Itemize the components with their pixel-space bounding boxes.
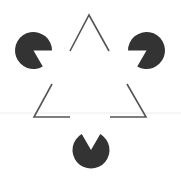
outline-bottom-left-corner: [34, 84, 70, 117]
outline-apex: [70, 15, 109, 51]
triangle-outline-segments: [34, 15, 146, 117]
illusion-canvas: [0, 0, 181, 179]
pacman-bottom: [73, 134, 110, 169]
pacman-top-left: [15, 32, 52, 69]
kanizsa-figure: [0, 0, 181, 179]
pacman-inducers: [15, 32, 165, 169]
pacman-top-right: [128, 32, 165, 69]
outline-bottom-right-corner: [110, 84, 146, 117]
